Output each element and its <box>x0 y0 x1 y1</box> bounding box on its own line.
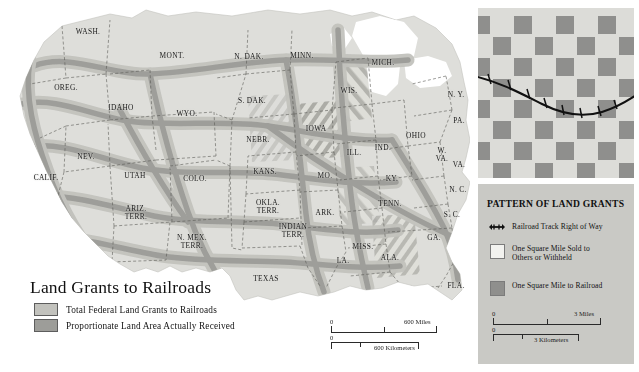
map-scale-miles-label: 600 Miles <box>404 318 431 325</box>
sold-square-icon <box>487 244 507 259</box>
checker-cell <box>478 142 490 160</box>
checker-cell <box>514 100 532 118</box>
checker-cell <box>493 163 511 178</box>
us-map: WASH.OREG.CALIF.NEV.IDAHOMONT.WYO.UTAHCO… <box>0 0 470 372</box>
checker-cell <box>598 142 616 160</box>
checker-cell <box>493 121 511 139</box>
legend-label-proportionate: Proportionate Land Area Actually Receive… <box>66 321 235 331</box>
legend-item-total-federal: Total Federal Land Grants to Railroads <box>34 303 320 316</box>
checker-cell <box>478 16 490 34</box>
checker-cell <box>556 100 574 118</box>
legend-item-proportionate: Proportionate Land Area Actually Receive… <box>34 319 320 332</box>
checker-cell <box>598 16 616 34</box>
checker-cell <box>598 58 616 76</box>
checker-cell <box>577 37 595 55</box>
checker-cell <box>556 142 574 160</box>
checker-cell <box>535 37 553 55</box>
checker-cell <box>556 16 574 34</box>
sold-square-swatch <box>490 244 505 259</box>
checker-cell <box>514 142 532 160</box>
pattern-panel: PATTERN OF LAND GRANTS Railroad Track Ri… <box>478 8 634 364</box>
checker-cell <box>514 16 532 34</box>
scale-axis <box>493 324 601 325</box>
checker-cell <box>577 79 595 97</box>
railroad-track-icon <box>487 222 507 232</box>
checker-cell <box>535 121 553 139</box>
pattern-legend: PATTERN OF LAND GRANTS Railroad Track Ri… <box>478 184 634 364</box>
tick-end-icon <box>578 334 579 341</box>
map-scale-km-label: 600 Kilometers <box>374 344 415 351</box>
pattern-label-railroad-square: One Square Mile to Railroad <box>512 281 602 290</box>
checker-cell <box>493 37 511 55</box>
tick-end-icon <box>418 342 419 349</box>
checker-cell <box>535 79 553 97</box>
checker-cell <box>478 100 490 118</box>
pattern-item-railroad-square: One Square Mile to Railroad <box>487 281 602 296</box>
scale-axis <box>331 342 419 343</box>
checker-cell <box>577 163 595 178</box>
checker-cell <box>478 58 490 76</box>
tick-end-icon <box>600 318 601 325</box>
checker-cell <box>619 163 634 178</box>
scale-axis <box>493 334 579 335</box>
pattern-label-railroad-track: Railroad Track Right of Way <box>512 222 603 231</box>
checker-cell <box>556 58 574 76</box>
checkerboard-diagram <box>478 8 634 178</box>
panel-scale-bars: 0 3 Miles 0 3 Kilometers <box>492 312 612 346</box>
tick-mid-icon <box>360 342 361 347</box>
legend-label-total-federal: Total Federal Land Grants to Railroads <box>66 305 217 315</box>
checker-cell <box>577 121 595 139</box>
proportionate-area-swatch <box>34 319 58 332</box>
total-federal-grants-swatch <box>34 303 58 316</box>
railroad-square-icon <box>487 281 507 296</box>
panel-scale-miles-label: 3 Miles <box>574 310 594 317</box>
tick-mid-icon <box>547 319 548 324</box>
map-figure: WASH.OREG.CALIF.NEV.IDAHOMONT.WYO.UTAHCO… <box>0 0 639 372</box>
map-scale-miles-zero: 0 <box>330 318 333 325</box>
railroad-square-swatch <box>490 281 505 296</box>
panel-scale-km-label: 3 Kilometers <box>534 336 568 343</box>
checker-cell <box>514 58 532 76</box>
checker-cell <box>619 121 634 139</box>
checkerboard-graphic <box>478 8 634 178</box>
pattern-item-railroad-track: Railroad Track Right of Way <box>487 222 603 232</box>
page-title: Land Grants to Railroads <box>30 277 320 298</box>
railroad-track-glyph <box>488 222 506 232</box>
map-scale-bars: 0 600 Miles 0 600 Kilometers <box>330 320 450 354</box>
tick-start-icon <box>493 334 494 341</box>
pattern-item-sold-square: One Square Mile Sold to Others or Withhe… <box>487 244 590 263</box>
map-title-block: Land Grants to Railroads Total Federal L… <box>30 277 320 335</box>
pattern-legend-title: PATTERN OF LAND GRANTS <box>487 198 624 209</box>
scale-axis <box>331 332 437 333</box>
tick-mid-icon <box>384 327 385 332</box>
tick-start-icon <box>331 342 332 349</box>
pattern-label-sold-square: One Square Mile Sold to Others or Withhe… <box>512 244 590 263</box>
panel-scale-miles-zero: 0 <box>492 310 495 317</box>
map-scale-km-zero: 0 <box>330 334 333 341</box>
panel-scale-km-zero: 0 <box>492 326 495 333</box>
checker-cell <box>535 163 553 178</box>
checker-cell <box>619 79 634 97</box>
tick-mid-icon <box>522 334 523 339</box>
checker-cell <box>619 37 634 55</box>
tick-end-icon <box>436 326 437 333</box>
